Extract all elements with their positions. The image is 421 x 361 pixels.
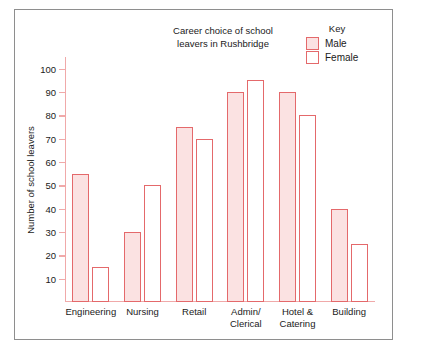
bar-group: Nursing <box>117 57 169 302</box>
legend-label-male: Male <box>325 38 347 49</box>
x-tick-label-line: Catering <box>255 318 341 330</box>
bar-female <box>299 115 316 302</box>
y-tick-label: 50 <box>45 180 56 191</box>
bar-male <box>331 209 348 302</box>
y-tick-label: 80 <box>45 110 56 121</box>
y-tick-label: 90 <box>45 87 56 98</box>
bar-male <box>176 127 193 302</box>
legend-item-male: Male <box>306 36 388 50</box>
legend-title: Key <box>306 23 368 34</box>
bar-male <box>124 232 141 302</box>
bar-group: Retail <box>168 57 220 302</box>
chart-title-line-2: leavers in Rushbridge <box>143 37 303 50</box>
y-tick-label: 40 <box>45 203 56 214</box>
bar-group: Admin/Clerical <box>220 57 272 302</box>
x-tick-label-line: Building <box>306 306 392 318</box>
y-tick-label: 60 <box>45 157 56 168</box>
bar-series-container: EngineeringNursingRetailAdmin/ClericalHo… <box>65 57 375 302</box>
y-tick-label: 10 <box>45 273 56 284</box>
chart-title-line-1: Career choice of school <box>143 24 303 37</box>
bar-female <box>144 185 161 302</box>
bar-male <box>227 92 244 302</box>
chart-figure: Career choice of school leavers in Rushb… <box>14 9 393 340</box>
chart-title: Career choice of school leavers in Rushb… <box>143 24 303 50</box>
bar-female <box>92 267 109 302</box>
bar-male <box>279 92 296 302</box>
bar-male <box>72 174 89 302</box>
bar-group: Engineering <box>65 57 117 302</box>
bar-female <box>247 80 264 302</box>
bar-female <box>351 244 368 302</box>
y-axis-label: Number of school leavers <box>23 57 37 302</box>
y-tick-label: 30 <box>45 227 56 238</box>
y-tick-label: 20 <box>45 250 56 261</box>
x-tick-label: Building <box>306 306 392 318</box>
bar-group: Hotel &Catering <box>272 57 324 302</box>
legend-swatch-male-icon <box>306 37 319 50</box>
bar-female <box>196 139 213 302</box>
bar-group: Building <box>323 57 375 302</box>
y-tick-label: 100 <box>40 63 56 74</box>
plot-area: 102030405060708090100 EngineeringNursing… <box>65 57 375 302</box>
y-tick-label: 70 <box>45 133 56 144</box>
